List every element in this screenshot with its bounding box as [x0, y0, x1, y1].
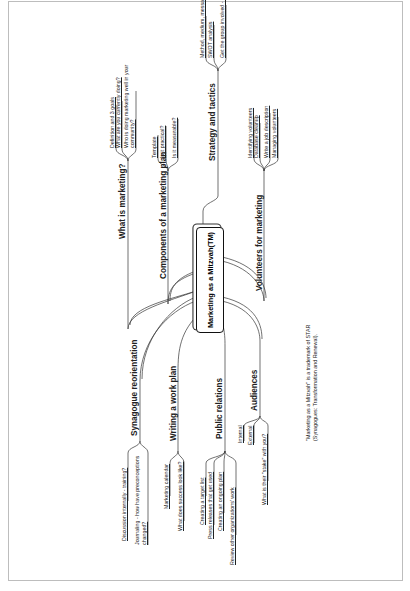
list-item: What are you currently doing?: [116, 77, 121, 148]
branch-synagogue: Synagogue reorientation: [131, 340, 139, 436]
list-item: Journaling - how have preconceptions: [135, 456, 140, 545]
list-item: What does success look like?: [178, 462, 183, 531]
list-item: Internal: [238, 425, 243, 443]
list-item: External: [248, 426, 253, 445]
list-item: Review other organizations' work: [230, 487, 235, 565]
branch-audiences: Audiences: [251, 370, 259, 411]
list-item: Is it practical?: [160, 126, 165, 158]
branch-strategy: Strategy and tactics: [209, 83, 217, 161]
branch-what-is-marketing: What is marketing?: [119, 163, 127, 239]
list-item: Method, medium, message: [200, 0, 205, 58]
branch-work-plan: Writing a work plan: [170, 366, 178, 441]
footnote-line-2: (Synagogues: Transformation and Renewal)…: [312, 325, 319, 441]
list-item: Press releases that get used: [208, 472, 213, 539]
list-item: Write a job description: [264, 106, 269, 158]
list-item: Get the group involved - strategic meeti…: [220, 0, 225, 58]
page: Marketing as a Mitzvah(TM) What is marke…: [0, 0, 410, 591]
footnote: "Marketing as a Mitzvah" is a trademark …: [305, 325, 319, 441]
list-item: Database cleanup: [254, 115, 259, 158]
list-item: Creating an ongoing plan: [218, 472, 223, 531]
branch-components: Components of a marketing plan: [160, 152, 168, 279]
list-item: Is it measurable?: [172, 118, 177, 158]
list-item: Template: [152, 137, 157, 159]
list-item: SWOT analysis: [208, 22, 213, 58]
mindmap-canvas: Marketing as a Mitzvah(TM) What is marke…: [0, 0, 410, 591]
list-item: Marketing calendar: [164, 464, 169, 509]
branch-volunteers: Volunteers for marketing: [256, 195, 264, 291]
list-item: changed?: [142, 522, 147, 545]
branch-public-relations: Public relations: [216, 378, 224, 439]
list-item: Managing volunteers: [272, 109, 277, 158]
list-item: Creating a target list: [200, 478, 205, 525]
list-item: What is their "stake" with you?: [262, 434, 267, 505]
list-item: community?: [130, 119, 135, 148]
footnote-line-1: "Marketing as a Mitzvah" is a trademark …: [305, 325, 312, 441]
list-item: Discussion internally - training?: [122, 468, 127, 541]
central-topic: Marketing as a Mitzvah(TM): [196, 227, 224, 333]
